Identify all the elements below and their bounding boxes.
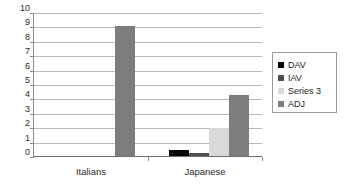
legend-swatch-icon xyxy=(278,101,284,107)
gridline xyxy=(34,114,262,115)
x-tick-label-japanese: Japanese xyxy=(148,166,262,177)
bar-chart: 10 9 8 7 6 5 4 3 2 1 0 xyxy=(0,0,348,189)
legend-item-dav: DAV xyxy=(278,58,336,71)
y-axis-labels: 10 9 8 7 6 5 4 3 2 1 0 xyxy=(0,8,30,156)
y-tick-label: 9 xyxy=(0,18,30,27)
gridline xyxy=(34,99,262,100)
y-tick-label: 7 xyxy=(0,47,30,56)
legend-label: DAV xyxy=(288,60,306,70)
legend-swatch-icon xyxy=(278,62,284,68)
legend-item-iav: IAV xyxy=(278,71,336,84)
y-tick-label: 1 xyxy=(0,133,30,142)
legend-label: IAV xyxy=(288,73,302,83)
bar-japanese-adj xyxy=(229,95,249,157)
y-tick-label: 0 xyxy=(0,148,30,157)
legend: DAV IAV Series 3 ADJ xyxy=(272,52,337,113)
x-axis-category-divider xyxy=(148,157,149,161)
y-tick-label: 5 xyxy=(0,76,30,85)
plot-area xyxy=(34,13,262,157)
legend-swatch-icon xyxy=(278,88,284,94)
gridline xyxy=(34,71,262,72)
gridline xyxy=(34,13,262,14)
gridline xyxy=(34,85,262,86)
y-tick-label: 3 xyxy=(0,104,30,113)
legend-item-adj: ADJ xyxy=(278,97,336,110)
bar-italians-adj xyxy=(115,26,135,157)
y-tick-label: 8 xyxy=(0,32,30,41)
legend-item-series3: Series 3 xyxy=(278,84,336,97)
y-tick-label: 10 xyxy=(0,4,30,13)
y-tick-mark xyxy=(30,157,34,158)
legend-label: ADJ xyxy=(288,99,305,109)
legend-swatch-icon xyxy=(278,75,284,81)
bar-japanese-series3 xyxy=(209,128,229,157)
y-tick-label: 6 xyxy=(0,61,30,70)
gridline xyxy=(34,27,262,28)
y-tick-label: 4 xyxy=(0,90,30,99)
y-tick-label: 2 xyxy=(0,119,30,128)
gridline xyxy=(34,56,262,57)
gridline xyxy=(34,42,262,43)
legend-label: Series 3 xyxy=(288,86,321,96)
x-axis-end-tick xyxy=(262,157,263,161)
x-tick-label-italians: Italians xyxy=(34,166,148,177)
